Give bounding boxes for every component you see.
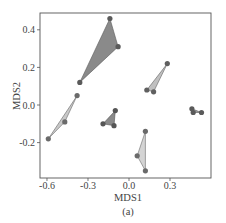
data-point <box>116 44 121 49</box>
data-point <box>191 110 196 115</box>
data-point <box>113 108 118 113</box>
group-hulls <box>48 19 201 171</box>
hull-group-2 <box>48 96 77 139</box>
data-point <box>75 93 80 98</box>
x-tick-label: -0.3 <box>80 180 96 191</box>
mds-scatter-chart: -0.6-0.30.00.3 -0.20.00.20.4 MDS1 MDS2 (… <box>0 0 226 223</box>
x-axis-ticks: -0.6-0.30.00.3 <box>39 178 176 191</box>
figure-caption: (a) <box>122 206 134 218</box>
x-axis-label: MDS1 <box>114 192 142 203</box>
hull-group-4 <box>147 64 168 92</box>
data-point <box>135 153 140 158</box>
data-point <box>143 168 148 173</box>
data-point <box>144 87 149 92</box>
x-tick-label: -0.6 <box>39 180 55 191</box>
data-points <box>46 16 204 174</box>
y-tick-label: 0.0 <box>23 100 36 111</box>
data-point <box>62 119 67 124</box>
data-point <box>111 123 116 128</box>
plot-frame <box>40 13 211 178</box>
data-point <box>107 16 112 21</box>
hull-group-5 <box>137 131 145 171</box>
x-tick-label: 0.0 <box>123 180 136 191</box>
hull-group-1 <box>80 19 118 83</box>
data-point <box>151 89 156 94</box>
y-axis-label: MDS2 <box>11 82 22 110</box>
y-axis-ticks: -0.20.00.20.4 <box>19 24 40 148</box>
data-point <box>199 110 204 115</box>
y-tick-label: 0.4 <box>23 24 36 35</box>
data-point <box>143 129 148 134</box>
data-point <box>77 80 82 85</box>
y-tick-label: 0.2 <box>23 62 36 73</box>
data-point <box>165 61 170 66</box>
y-tick-label: -0.2 <box>19 137 35 148</box>
data-point <box>100 121 105 126</box>
x-tick-label: 0.3 <box>164 180 177 191</box>
data-point <box>46 136 51 141</box>
